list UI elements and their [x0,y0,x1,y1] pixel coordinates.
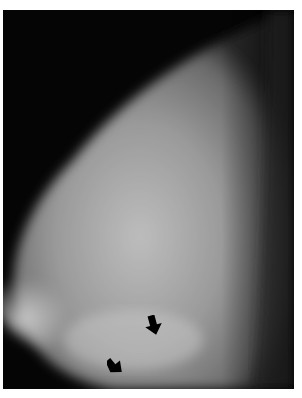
arrow-icon [107,356,125,374]
arrow-icon [145,315,163,335]
mammogram-image [3,10,294,389]
